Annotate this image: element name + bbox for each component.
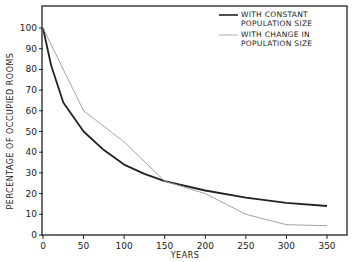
y-tick-label: 90 bbox=[26, 44, 38, 54]
series-line-constant-population bbox=[43, 28, 327, 206]
x-tick-label: 200 bbox=[197, 241, 214, 251]
y-tick-label: 100 bbox=[20, 23, 37, 33]
x-axis-title: YEARS bbox=[170, 251, 200, 260]
y-tick-label: 50 bbox=[26, 127, 38, 137]
y-tick-label: 0 bbox=[31, 230, 37, 240]
x-tick-label: 50 bbox=[78, 241, 90, 251]
legend: WITH CONSTANT POPULATION SIZE WITH CHANG… bbox=[219, 10, 312, 48]
x-tick-label: 150 bbox=[156, 241, 173, 251]
series-line-changing-population bbox=[43, 28, 327, 226]
data-series bbox=[43, 28, 327, 226]
y-axis-title: PERCENTAGE OF OCCUPIED ROOMS bbox=[6, 53, 15, 210]
legend-label-change-1: WITH CHANGE IN bbox=[241, 30, 310, 39]
x-axis: 050100150200250300350 bbox=[40, 235, 336, 251]
y-tick-label: 10 bbox=[26, 209, 38, 219]
y-tick-label: 30 bbox=[26, 168, 38, 178]
y-tick-label: 80 bbox=[26, 64, 38, 74]
x-tick-label: 100 bbox=[116, 241, 133, 251]
y-tick-label: 70 bbox=[26, 85, 38, 95]
y-tick-label: 60 bbox=[26, 106, 38, 116]
legend-label-constant-1: WITH CONSTANT bbox=[241, 10, 308, 19]
y-axis: 0102030405060708090100 bbox=[20, 23, 43, 240]
legend-label-constant-2: POPULATION SIZE bbox=[241, 19, 312, 28]
legend-label-change-2: POPULATION SIZE bbox=[241, 39, 312, 48]
x-tick-label: 350 bbox=[318, 241, 335, 251]
y-tick-label: 40 bbox=[26, 147, 38, 157]
x-tick-label: 0 bbox=[40, 241, 46, 251]
y-tick-label: 20 bbox=[26, 189, 38, 199]
x-tick-label: 250 bbox=[237, 241, 254, 251]
line-chart: 0102030405060708090100 05010015020025030… bbox=[0, 0, 354, 262]
x-tick-label: 300 bbox=[278, 241, 295, 251]
